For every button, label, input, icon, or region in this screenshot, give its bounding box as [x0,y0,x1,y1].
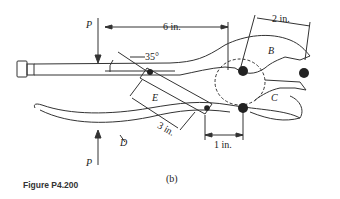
handle-end-cap [17,61,27,77]
part-E-label: E [152,93,158,103]
part-D-label: D [120,138,127,148]
subfigure-label: (b) [166,174,178,184]
force-label-top: P [86,20,92,30]
dim-1in: 1 in. [214,140,232,150]
part-B-label: B [268,46,274,56]
pin-1 [147,69,153,75]
pivot-pin [238,66,248,76]
part-C-label: C [271,93,278,103]
force-label-bottom: P [86,158,92,168]
figure-caption: Figure P4.200 [23,180,78,190]
pin-lower [238,103,248,113]
dim-2in: 2 in. [272,14,290,24]
workpiece [299,68,309,78]
pin-2 [204,105,210,111]
dim-6in: 6 in. [163,22,181,32]
angle-label: 35° [145,52,159,62]
